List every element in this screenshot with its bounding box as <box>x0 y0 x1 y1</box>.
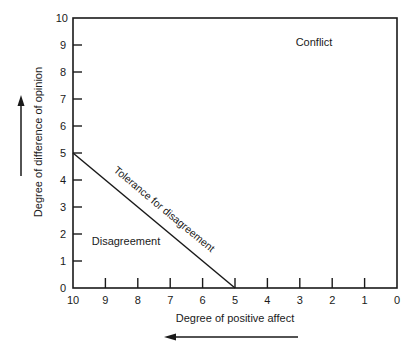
x-axis-title: Degree of positive affect <box>176 312 294 324</box>
y-tick-0: 0 <box>60 282 66 294</box>
y-tick-10: 10 <box>56 12 68 24</box>
y-tick-5: 5 <box>60 147 66 159</box>
y-tick-2: 2 <box>60 228 66 240</box>
y-axis-title: Degree of difference of opinion <box>32 67 44 217</box>
x-tick-0: 0 <box>394 294 400 306</box>
disagreement-label: Disagreement <box>92 235 160 247</box>
x-tick-2: 2 <box>329 294 335 306</box>
y-tick-7: 7 <box>60 93 66 105</box>
plot-frame <box>73 18 397 288</box>
x-axis-ticks <box>105 278 364 288</box>
chart-canvas: 0 1 2 3 4 5 6 7 8 9 10 10 9 8 7 6 5 4 3 … <box>0 0 411 356</box>
y-tick-9: 9 <box>60 39 66 51</box>
x-tick-1: 1 <box>362 294 368 306</box>
up-arrow-icon <box>18 95 25 176</box>
y-tick-8: 8 <box>60 66 66 78</box>
x-tick-4: 4 <box>264 294 270 306</box>
y-tick-3: 3 <box>60 201 66 213</box>
x-tick-6: 6 <box>200 294 206 306</box>
conflict-label: Conflict <box>296 36 333 48</box>
y-tick-labels: 0 1 2 3 4 5 6 7 8 9 10 <box>56 12 68 294</box>
y-tick-1: 1 <box>60 255 66 267</box>
y-tick-4: 4 <box>60 174 66 186</box>
y-tick-6: 6 <box>60 120 66 132</box>
y-axis-ticks <box>73 45 82 261</box>
left-arrow-icon <box>164 334 298 341</box>
x-tick-9: 9 <box>102 294 108 306</box>
x-tick-labels: 10 9 8 7 6 5 4 3 2 1 0 <box>67 294 400 306</box>
x-tick-3: 3 <box>297 294 303 306</box>
tolerance-line <box>73 153 235 288</box>
x-tick-10: 10 <box>67 294 79 306</box>
x-tick-8: 8 <box>135 294 141 306</box>
x-tick-7: 7 <box>167 294 173 306</box>
x-tick-5: 5 <box>232 294 238 306</box>
